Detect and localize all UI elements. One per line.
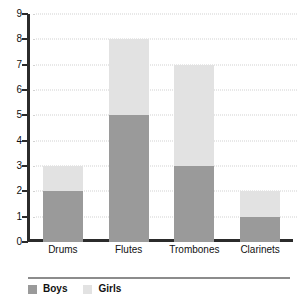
bar-segment-boys[interactable] xyxy=(174,166,214,242)
bar-column[interactable] xyxy=(174,14,214,242)
stacked-bar-chart: 0123456789 DrumsFlutesTrombonesClarinets… xyxy=(0,0,301,303)
bar-column[interactable] xyxy=(240,14,280,242)
chart-legend: BoysGirls xyxy=(28,284,121,294)
bar-segment-boys[interactable] xyxy=(43,191,83,242)
bar-column[interactable] xyxy=(109,14,149,242)
legend-item[interactable]: Boys xyxy=(28,284,67,294)
legend-divider xyxy=(28,277,290,279)
legend-label: Girls xyxy=(98,284,121,294)
x-axis-labels: DrumsFlutesTrombonesClarinets xyxy=(30,244,293,256)
bar-segment-girls[interactable] xyxy=(109,39,149,115)
bar-segment-girls[interactable] xyxy=(240,191,280,216)
bar-segment-girls[interactable] xyxy=(43,166,83,191)
x-tick-label: Trombones xyxy=(165,244,223,256)
bar-segment-boys[interactable] xyxy=(240,217,280,242)
legend-label: Boys xyxy=(43,284,67,294)
x-tick-label: Clarinets xyxy=(231,244,289,256)
bar-segment-boys[interactable] xyxy=(109,115,149,242)
bar-segment-girls[interactable] xyxy=(174,65,214,166)
plot-area: 0123456789 DrumsFlutesTrombonesClarinets xyxy=(0,0,301,262)
bar-column[interactable] xyxy=(43,14,83,242)
legend-swatch-icon xyxy=(83,285,92,294)
x-tick-label: Drums xyxy=(34,244,92,256)
legend-swatch-icon xyxy=(28,285,37,294)
bar-group xyxy=(30,14,293,242)
legend-item[interactable]: Girls xyxy=(83,284,121,294)
x-tick-label: Flutes xyxy=(100,244,158,256)
